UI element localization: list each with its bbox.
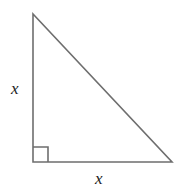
right-angle-square-icon <box>33 147 48 162</box>
triangle-shape <box>33 14 172 162</box>
horizontal-leg-label: x <box>95 170 103 187</box>
right-triangle-figure: x x <box>0 0 181 191</box>
vertical-leg-label: x <box>11 80 19 97</box>
right-angle-marker <box>33 147 48 162</box>
triangle-drawing <box>0 0 181 191</box>
triangle-outline <box>33 14 172 162</box>
